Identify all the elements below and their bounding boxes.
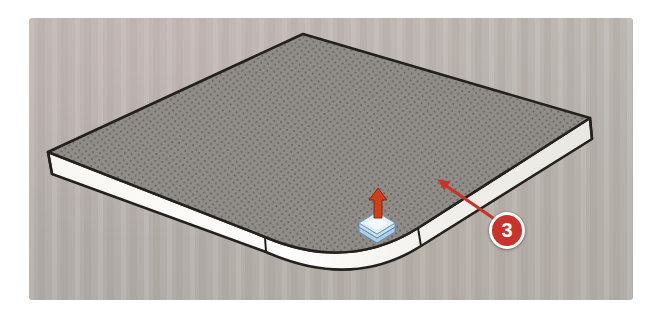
- scanned-figure-page: 3: [0, 0, 665, 319]
- illustration-photo: 3: [29, 18, 633, 300]
- slab-illustration: [29, 18, 633, 300]
- slab-corner-seam-left: [265, 237, 266, 252]
- callout-3-badge: 3: [489, 212, 525, 249]
